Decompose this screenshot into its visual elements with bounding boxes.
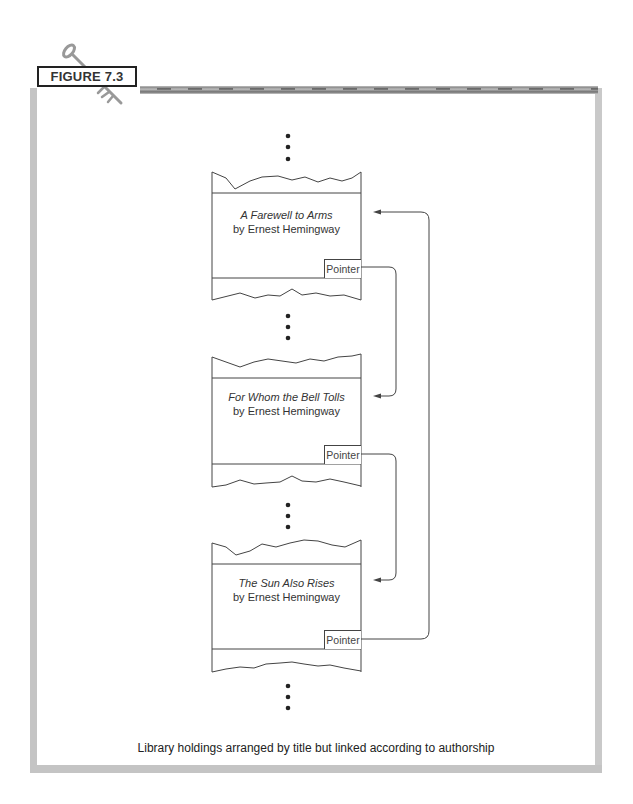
record-2-outline [212, 354, 361, 487]
record-3: The Sun Also Rises by Ernest Hemingway [212, 576, 361, 604]
arrowhead-icon [373, 210, 381, 215]
pointer-field: Pointer [324, 259, 361, 278]
record-title: A Farewell to Arms [212, 208, 361, 222]
figure-caption: Library holdings arranged by title but l… [37, 741, 595, 755]
record-author: by Ernest Hemingway [212, 222, 361, 236]
record-1-outline [212, 172, 361, 300]
record-title: The Sun Also Rises [212, 576, 361, 590]
record-2: For Whom the Bell Tolls by Ernest Heming… [212, 390, 361, 418]
record-3-outline [212, 540, 361, 672]
pointer-field: Pointer [324, 445, 361, 464]
record-author: by Ernest Hemingway [212, 404, 361, 418]
link-arrow-2-to-3 [361, 454, 396, 580]
record-author: by Ernest Hemingway [212, 590, 361, 604]
ellipsis-top [286, 134, 291, 162]
record-title: For Whom the Bell Tolls [212, 390, 361, 404]
ellipsis-2 [286, 503, 291, 530]
arrowhead-icon [373, 394, 381, 399]
link-arrow-1-to-2 [361, 267, 396, 396]
pointer-field: Pointer [324, 630, 361, 649]
figure-label: FIGURE 7.3 [37, 66, 137, 87]
ellipsis-bottom [286, 684, 291, 711]
ellipsis-1 [286, 314, 291, 341]
link-arrow-3-to-1 [361, 212, 429, 639]
record-1: A Farewell to Arms by Ernest Hemingway [212, 208, 361, 236]
arrowhead-icon [373, 578, 381, 583]
